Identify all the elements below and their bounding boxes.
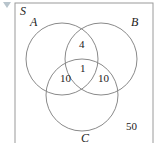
- set-b-label: B: [131, 15, 139, 29]
- region-outside-value: 50: [126, 120, 138, 132]
- venn-diagram: S A B C 4 1 10 10 50: [0, 0, 154, 143]
- set-a-label: A: [29, 15, 38, 29]
- region-ab-value: 4: [79, 38, 85, 50]
- region-ac-value: 10: [60, 72, 72, 84]
- universe-label: S: [20, 4, 26, 18]
- region-bc-value: 10: [98, 72, 110, 84]
- region-abc-value: 1: [80, 62, 86, 74]
- set-c-label: C: [81, 131, 90, 143]
- circle-b: [65, 23, 137, 95]
